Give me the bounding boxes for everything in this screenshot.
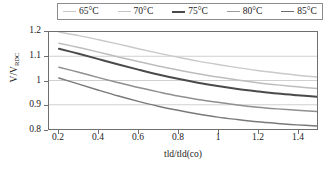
x-tick-label: 0.6 [132,133,144,143]
x-tick-label: 0.2 [52,133,64,143]
chart-figure: 65°C70°C75°C80°C85°C V/VRDC 0.80.911.11.… [0,0,330,171]
chart-legend: 65°C70°C75°C80°C85°C [57,3,323,20]
legend-label: 85°C [297,7,317,17]
legend-label: 80°C [243,7,263,17]
x-tick-label: 1 [216,133,221,143]
y-tick-label: 0.8 [29,125,41,135]
legend-item-85c: 85°C [281,7,317,17]
y-axis-ticks: 0.80.911.11.2 [0,0,46,171]
legend-label: 75°C [188,7,208,17]
legend-item-75c: 75°C [172,7,208,17]
y-tick-label: 1 [36,76,41,86]
plot-area [48,31,318,130]
y-tick-label: 1.1 [29,51,41,61]
legend-label: 70°C [134,7,154,17]
x-tick-label: 0.4 [92,133,104,143]
legend-line-swatch [281,11,294,12]
legend-item-65c: 65°C [63,7,99,17]
legend-line-swatch [227,11,240,12]
legend-line-swatch [118,11,131,12]
x-tick-label: 1.4 [292,133,304,143]
legend-line-swatch [63,11,76,12]
data-curves [49,32,317,129]
y-tick-label: 1.2 [29,26,41,36]
x-axis-title: tld/tld(co) [48,149,318,159]
legend-item-70c: 70°C [118,7,154,17]
legend-item-80c: 80°C [227,7,263,17]
x-tick-label: 1.2 [252,133,264,143]
y-tick-label: 0.9 [29,100,41,110]
legend-line-swatch [172,11,185,13]
series-line-65c [59,32,317,77]
legend-label: 65°C [79,7,99,17]
x-tick-label: 0.8 [172,133,184,143]
